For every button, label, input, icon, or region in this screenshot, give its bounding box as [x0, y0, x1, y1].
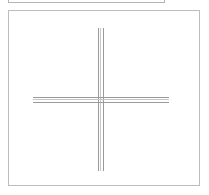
- app-root: [0, 0, 209, 195]
- canvas-panel[interactable]: [8, 10, 200, 186]
- crosshair-horizontal-stroke-bottom: [33, 102, 169, 103]
- crosshair-horizontal-stroke-middle: [33, 99, 169, 100]
- crosshair-drawing[interactable]: [9, 11, 199, 185]
- crosshair-horizontal-stroke-top: [33, 97, 169, 98]
- partially-visible-panel-above: [8, 0, 165, 3]
